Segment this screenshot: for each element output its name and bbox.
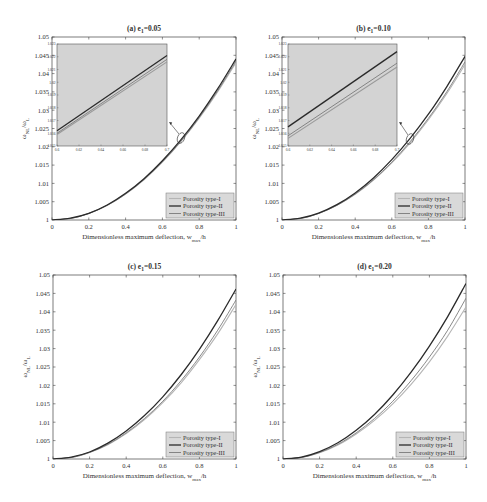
- y-tick-label: 1.015: [265, 400, 280, 407]
- title-suffix: =0.15: [144, 262, 162, 271]
- y-axis-label: ωNL/ωL: [21, 357, 31, 378]
- y-tick-label: 1.015: [35, 400, 50, 407]
- x-tick-label: 0.4: [122, 223, 131, 230]
- x-tick-label: 0.8: [195, 462, 203, 469]
- ylabel-sub2: L: [256, 357, 261, 360]
- x-axis-label: Dimensionless maximum deflection, wmax/h: [83, 472, 207, 482]
- y-tick-label: 1.015: [34, 161, 49, 168]
- xlabel-main: Dimensionless maximum deflection, w: [312, 233, 423, 241]
- ylabel-sub2: L: [255, 118, 260, 121]
- y-tick-label: 1.03: [39, 345, 50, 352]
- x-tick-label: 1: [234, 223, 237, 230]
- legend-label: Porosity type-III: [412, 210, 454, 217]
- title-suffix: =0.10: [373, 24, 391, 33]
- axes-box: [53, 275, 236, 459]
- inset-x-tick-label: 0.68: [372, 148, 378, 152]
- xlabel-main: Dimensionless maximum deflection, w: [313, 472, 424, 480]
- y-tick-label: 1.01: [268, 180, 279, 187]
- y-tick-label: 1.005: [264, 198, 279, 205]
- x-tick-label: 1: [463, 223, 466, 230]
- legend-label: Porosity type-III: [183, 449, 225, 456]
- panel-title: (c) e1=0.15: [128, 262, 162, 272]
- inset-y-tick-label: 1.017: [47, 119, 55, 123]
- y-tick-label: 1.035: [265, 327, 280, 334]
- y-axis-label: ωNL/ωL: [251, 357, 261, 378]
- x-axis-label: Dimensionless maximum deflection, wmax/h: [82, 233, 206, 243]
- legend-label: Porosity type-I: [183, 434, 221, 441]
- panel-c: (c) e1=0.1511.0051.011.0151.021.0251.031…: [21, 262, 238, 482]
- panel-title: (d) e1=0.20: [357, 262, 392, 272]
- y-tick-label: 1.03: [268, 107, 279, 114]
- x-tick-label: 0.8: [425, 462, 433, 469]
- inset-y-tick-label: 1.022: [278, 55, 286, 59]
- inset-y-tick-label: 1.02: [280, 81, 286, 85]
- inset-x-tick-label: 0.7: [165, 148, 170, 152]
- y-tick-label: 1: [276, 216, 279, 223]
- title-prefix: (b) e: [356, 24, 371, 33]
- ylabel-sub2: L: [25, 118, 30, 121]
- legend-label: Porosity type-I: [413, 434, 451, 441]
- x-tick-label: 0.6: [159, 462, 168, 469]
- legend: Porosity type-IPorosity type-IIPorosity …: [395, 193, 463, 218]
- legend-label: Porosity type-II: [183, 202, 223, 209]
- x-tick-label: 0.6: [158, 223, 167, 230]
- panel-b: (b) e1=0.1011.0051.011.0151.021.0251.031…: [250, 24, 467, 243]
- y-tick-label: 1.05: [38, 33, 49, 40]
- inset-axes: 1.0151.0161.0171.0181.0191.021.0211.0221…: [47, 42, 169, 152]
- x-tick-label: 0: [281, 462, 284, 469]
- figure: (a) e1=0.0511.0051.011.0151.021.0251.031…: [0, 0, 487, 502]
- title-prefix: (c) e: [128, 262, 142, 271]
- y-tick-label: 1.02: [268, 143, 279, 150]
- y-tick-label: 1: [277, 455, 280, 462]
- y-tick-label: 1: [47, 455, 50, 462]
- xlabel-main: Dimensionless maximum deflection, w: [82, 233, 193, 241]
- inset-x-tick-label: 0.6: [55, 148, 60, 152]
- x-tick-label: 0.6: [389, 462, 398, 469]
- y-tick-label: 1.005: [265, 437, 280, 444]
- xlabel-tail: /h: [200, 233, 206, 241]
- inset-x-tick-label: 0.6: [286, 148, 291, 152]
- xlabel-tail: /h: [430, 233, 436, 241]
- inset-y-tick-label: 1.018: [47, 106, 55, 110]
- title-suffix: =0.20: [374, 262, 392, 271]
- inset-x-tick-label: 0.62: [76, 148, 82, 152]
- panel-a: (a) e1=0.0511.0051.011.0151.021.0251.031…: [20, 24, 238, 243]
- inset-x-tick-label: 0.7: [395, 148, 400, 152]
- y-tick-label: 1.005: [34, 198, 49, 205]
- y-tick-label: 1.04: [39, 308, 51, 315]
- x-tick-label: 0.2: [85, 223, 93, 230]
- y-tick-label: 1.025: [264, 125, 279, 132]
- inset-y-tick-label: 1.021: [47, 68, 55, 72]
- inset-y-tick-label: 1.023: [278, 42, 286, 46]
- y-tick-label: 1.04: [269, 308, 281, 315]
- ylabel-sub2: L: [26, 357, 31, 360]
- inset-x-tick-label: 0.64: [328, 148, 334, 152]
- panel-title: (a) e1=0.05: [127, 24, 161, 34]
- ylabel-sub1: NL: [256, 366, 261, 373]
- y-tick-label: 1.025: [35, 363, 50, 370]
- x-tick-label: 0.4: [351, 223, 360, 230]
- x-tick-label: 0: [51, 462, 54, 469]
- y-tick-label: 1.005: [35, 437, 50, 444]
- y-axis-label: ωNL/ωL: [250, 118, 260, 139]
- y-tick-label: 1.03: [269, 345, 280, 352]
- title-prefix: (a) e: [127, 24, 142, 33]
- y-tick-label: 1.05: [268, 33, 279, 40]
- y-tick-label: 1.025: [265, 363, 280, 370]
- legend: Porosity type-IPorosity type-IIPorosity …: [166, 193, 234, 218]
- inset-y-tick-label: 1.016: [47, 132, 55, 136]
- x-tick-label: 0: [50, 223, 53, 230]
- inset-x-tick-label: 0.66: [120, 148, 126, 152]
- y-tick-label: 1.045: [264, 52, 279, 59]
- legend-label: Porosity type-II: [183, 441, 223, 448]
- title-prefix: (d) e: [357, 262, 372, 271]
- panel-title: (b) e1=0.10: [356, 24, 391, 34]
- inset-y-tick-label: 1.02: [49, 81, 55, 85]
- inset-y-tick-label: 1.019: [278, 93, 286, 97]
- x-tick-label: 0.6: [388, 223, 397, 230]
- y-tick-label: 1.01: [269, 419, 280, 426]
- legend: Porosity type-IPorosity type-IIPorosity …: [166, 432, 234, 457]
- inset-y-tick-label: 1.021: [278, 68, 286, 72]
- legend-label: Porosity type-I: [183, 195, 221, 202]
- panel-d: (d) e1=0.2011.0051.011.0151.021.0251.031…: [251, 262, 468, 482]
